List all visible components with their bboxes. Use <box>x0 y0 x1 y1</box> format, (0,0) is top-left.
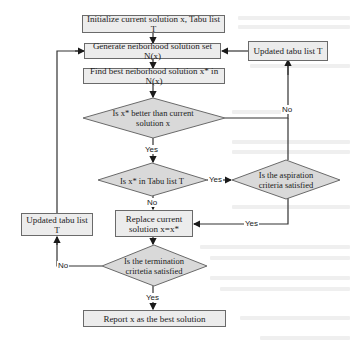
updated-tabu-left-text: Updated tabu list T <box>24 215 90 235</box>
replace-box: Replace current solution x=x* <box>115 210 193 237</box>
edge-label-termination-no: No <box>57 261 69 270</box>
find-best-text: Find best neiborhood solution x* in N(x) <box>86 66 222 86</box>
generate-box: Generate neiborhood solution set N(x) <box>84 43 221 59</box>
edge-label-better-no: No <box>281 105 293 114</box>
edge-label-better-yes: Yes <box>144 145 159 154</box>
replace-text-line1: Replace current <box>126 214 183 224</box>
generate-text: Generate neiborhood solution set N(x) <box>87 41 218 61</box>
edge-label-termination-yes: Yes <box>145 293 160 302</box>
better-text: Is x* better than current solution x <box>103 107 203 129</box>
report-box: Report x as the best solution <box>83 310 226 327</box>
edge-label-aspiration-yes: Yes <box>244 219 259 228</box>
updated-tabu-left-box: Updated tabu list T <box>21 213 93 236</box>
termination-text: Is the termination crirtetia satisfied <box>114 255 194 277</box>
aspiration-text: Is the aspiration criteria satisfied <box>246 169 326 191</box>
updated-tabu-top-box: Updated tabu list T <box>248 41 328 61</box>
find-best-box: Find best neiborhood solution x* in N(x) <box>83 68 225 84</box>
init-box: Initialize current solution x, Tabu list… <box>82 15 225 33</box>
edge-label-tabu-yes: Yes <box>208 175 223 184</box>
init-text: Initialize current solution x, Tabu list… <box>85 14 222 34</box>
edge-label-tabu-no: No <box>146 198 158 207</box>
in-tabu-text: Is x* in Tabu list T <box>112 175 192 186</box>
report-text: Report x as the best solution <box>103 314 205 324</box>
replace-text-line2: solution x=x* <box>129 224 179 234</box>
updated-tabu-top-text: Updated tabu list T <box>253 46 322 56</box>
